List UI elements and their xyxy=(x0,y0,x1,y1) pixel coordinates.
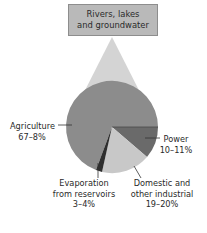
label-domestic: Domestic and other industrial 19–20% xyxy=(124,178,200,210)
label-agriculture: Agriculture 67–8% xyxy=(3,121,55,142)
label-power: Power 10–11% xyxy=(150,134,202,155)
label-evaporation: Evaporation from reservoirs 3–4% xyxy=(45,178,123,210)
leader-domestic xyxy=(134,166,141,178)
